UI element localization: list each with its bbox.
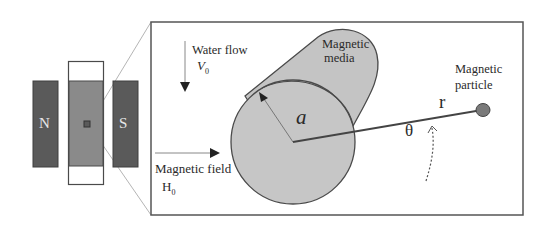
water-flow-label: Water flow bbox=[192, 44, 248, 57]
magnetic-particle bbox=[476, 104, 490, 117]
zoom-region-square bbox=[84, 121, 90, 127]
radius-symbol: a bbox=[296, 107, 307, 128]
field-strength-label: H0 bbox=[162, 180, 175, 197]
magnetic-particle-label-line1: Magnetic bbox=[455, 63, 502, 76]
flow-velocity-symbol: V bbox=[197, 58, 205, 73]
magnetic-media-label-line1: Magnetic bbox=[322, 38, 369, 51]
field-strength-subscript: 0 bbox=[171, 188, 175, 197]
angle-symbol: θ bbox=[405, 122, 413, 139]
flow-velocity-subscript: 0 bbox=[205, 67, 209, 76]
distance-symbol: r bbox=[439, 92, 445, 111]
magnetic-media-label-line2: media bbox=[324, 52, 355, 65]
magnetic-particle-label-line2: particle bbox=[455, 79, 492, 92]
magnetic-field-label: Magnetic field bbox=[155, 162, 231, 175]
diagram-canvas bbox=[0, 0, 554, 229]
south-pole-label: S bbox=[119, 116, 127, 131]
north-pole-label: N bbox=[39, 116, 50, 131]
flow-velocity-label: V0 bbox=[197, 59, 209, 76]
field-strength-symbol: H bbox=[162, 179, 171, 194]
